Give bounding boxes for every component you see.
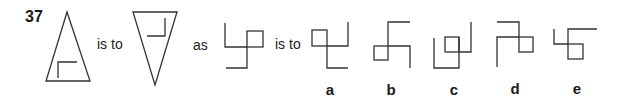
connector-is-to-1: is to: [97, 36, 123, 52]
option-c-figure[interactable]: [434, 22, 471, 68]
connector-is-to-2: is to: [275, 36, 301, 52]
option-e-figure[interactable]: [554, 29, 597, 59]
figure-triangle-down: [133, 12, 177, 85]
figure-triangle-up: [46, 12, 90, 81]
option-label-d[interactable]: d: [510, 80, 519, 97]
option-label-a[interactable]: a: [326, 81, 334, 98]
option-a-figure[interactable]: [312, 22, 348, 68]
option-label-c[interactable]: c: [450, 81, 458, 98]
connector-as: as: [193, 37, 208, 53]
option-d-figure[interactable]: [497, 22, 533, 67]
figure-stem: [225, 23, 263, 68]
figures-canvas: [0, 0, 621, 106]
option-label-b[interactable]: b: [386, 81, 395, 98]
option-b-figure[interactable]: [374, 22, 410, 68]
option-label-e[interactable]: e: [573, 80, 581, 97]
